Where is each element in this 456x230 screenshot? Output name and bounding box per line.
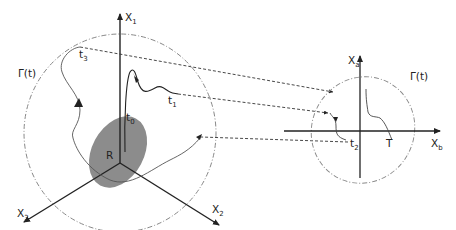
label-t1: t1	[168, 94, 177, 109]
label-t2: t2	[350, 137, 359, 152]
label-region-r: R	[106, 149, 113, 161]
label-x1: X1	[125, 11, 137, 26]
label-xb: Xb	[431, 137, 443, 152]
right-labels: Xa Xb Γ(t) t2 T	[348, 54, 443, 152]
region-r	[77, 106, 159, 198]
left-frame	[24, 14, 219, 230]
projection-t2	[201, 137, 348, 142]
trajectory-projection-diagram: X1 X2 X3 Γ(t) R t0 t1 t3 Xa Xb Γ(t) t2 T	[0, 0, 456, 230]
direction-arrow-t3	[74, 98, 83, 107]
label-T: T	[385, 137, 393, 149]
trajectory-t-end	[366, 89, 392, 140]
axis-x2	[120, 163, 219, 225]
label-x3: X3	[17, 207, 29, 222]
label-x2: X2	[212, 203, 224, 218]
label-t3: t3	[79, 48, 88, 63]
label-xa: Xa	[348, 54, 360, 69]
projection-t1	[178, 94, 328, 113]
trajectory-t2	[330, 113, 346, 140]
label-gamma-right: Γ(t)	[410, 70, 428, 82]
projection-t3	[80, 47, 333, 92]
label-gamma-left: Γ(t)	[18, 67, 36, 79]
axis-x3	[24, 163, 120, 222]
